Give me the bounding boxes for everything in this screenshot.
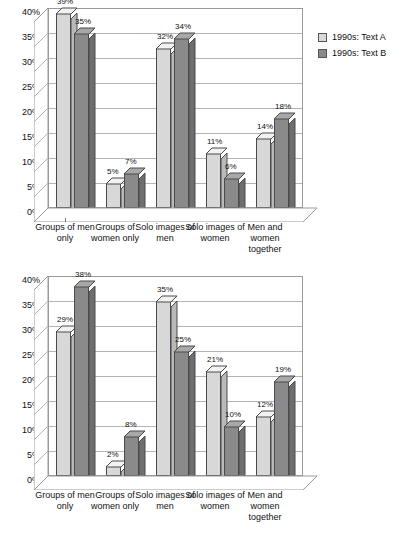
bar-value-label: 12%: [257, 401, 273, 409]
bar-value-label: 39%: [57, 0, 73, 6]
bar-value-label: 35%: [75, 18, 91, 26]
legend-item[interactable]: 1990s: Text B: [318, 49, 386, 58]
bar-group: 32% 34%: [156, 8, 200, 208]
bar-value-label: 11%: [207, 138, 222, 146]
bar-value-label: 5%: [107, 168, 119, 176]
bar-value-label: 10%: [225, 411, 241, 419]
axis-side-panel: [34, 8, 48, 222]
x-axis-2000s: Groups of men only Groups of women only …: [34, 490, 324, 532]
legend-item[interactable]: 1990s: Text A: [318, 33, 386, 42]
bar-group: 14% 18%: [256, 8, 300, 208]
x-category-label: Men and women together: [234, 490, 296, 523]
axis-side-panel: [34, 276, 48, 490]
legend-swatch-icon: [318, 49, 327, 58]
bar-group: 2% 8%: [106, 276, 150, 476]
x-category-label: Men and women together: [234, 222, 296, 255]
bar-value-label: 34%: [175, 23, 191, 31]
plot-area-1990s: 40% 35% 30% 25% 20% 15% 10% 5% 0%: [0, 0, 415, 267]
legend-label: 1990s: Text A: [332, 33, 386, 42]
bar-value-label: 21%: [207, 356, 223, 364]
legend-swatch-icon: [318, 33, 327, 42]
bar-group: 35% 25%: [156, 276, 200, 476]
bar-group: 29% 38%: [56, 276, 100, 476]
chart-2000s: 40% 35% 30% 25% 20% 15% 10% 5% 0%: [0, 268, 415, 535]
bar-value-label: 8%: [125, 421, 137, 429]
legend-label: 1990s: Text B: [332, 49, 386, 58]
bar-value-label: 32%: [157, 33, 173, 41]
plot-area-2000s: 40% 35% 30% 25% 20% 15% 10% 5% 0%: [0, 268, 415, 535]
bar-group: 21% 10%: [206, 276, 250, 476]
bar-series-2000s: 29% 38% 2%: [48, 276, 303, 476]
bar-value-label: 25%: [175, 336, 191, 344]
bar-value-label: 29%: [57, 316, 73, 324]
plot-floor: [34, 194, 317, 222]
bar-series-1990s: 39% 35% 5%: [48, 8, 303, 208]
bar-value-label: 38%: [75, 271, 91, 279]
x-axis-1990s: Groups of men only Groups of women only …: [34, 222, 324, 264]
bar-value-label: 35%: [157, 286, 173, 294]
bar-group: 5% 7%: [106, 8, 150, 208]
bar-value-label: 18%: [275, 103, 291, 111]
bar-group: 11% 6%: [206, 8, 250, 208]
bar-group: 39% 35%: [56, 8, 100, 208]
bar-group: 12% 19%: [256, 276, 300, 476]
chart-page: 40% 35% 30% 25% 20% 15% 10% 5% 0%: [0, 0, 415, 535]
legend-1990s: 1990s: Text A 1990s: Text B: [318, 33, 386, 65]
bar-value-label: 14%: [257, 123, 273, 131]
plot-floor: [34, 462, 317, 490]
bar-value-label: 2%: [107, 451, 119, 459]
bar-value-label: 7%: [125, 158, 137, 166]
bar-value-label: 19%: [275, 366, 291, 374]
bar-value-label: 6%: [225, 163, 237, 171]
chart-1990s: 40% 35% 30% 25% 20% 15% 10% 5% 0%: [0, 0, 415, 267]
